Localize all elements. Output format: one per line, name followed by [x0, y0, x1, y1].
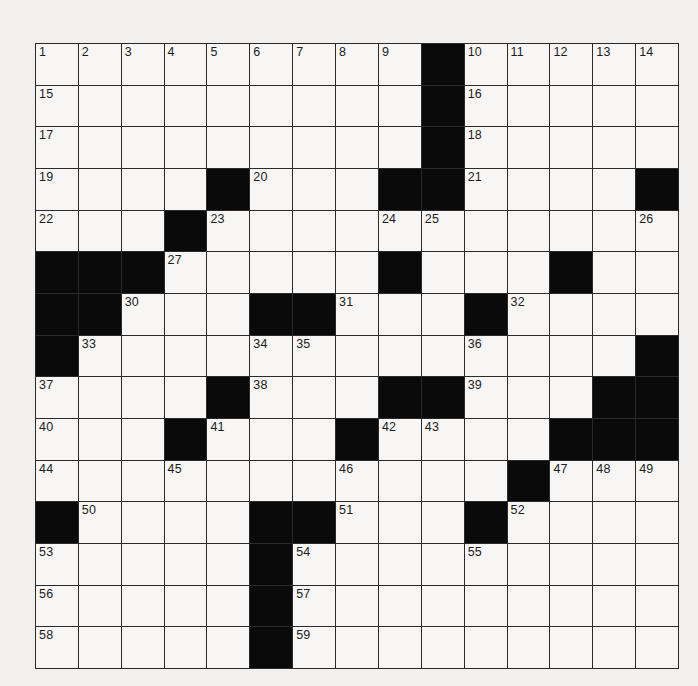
crossword-cell[interactable]: 37 [36, 377, 78, 418]
crossword-cell[interactable] [422, 586, 464, 627]
crossword-cell[interactable]: 35 [293, 336, 335, 377]
crossword-cell[interactable] [207, 544, 249, 585]
crossword-cell[interactable] [207, 127, 249, 168]
crossword-cell[interactable] [550, 169, 592, 210]
crossword-cell[interactable] [636, 502, 678, 543]
crossword-cell[interactable] [465, 252, 507, 293]
crossword-cell[interactable] [636, 86, 678, 127]
crossword-cell[interactable] [165, 377, 207, 418]
crossword-cell[interactable]: 17 [36, 127, 78, 168]
crossword-cell[interactable]: 53 [36, 544, 78, 585]
crossword-cell[interactable] [508, 377, 550, 418]
crossword-cell[interactable]: 24 [379, 211, 421, 252]
crossword-cell[interactable] [79, 627, 121, 668]
crossword-cell[interactable] [122, 586, 164, 627]
crossword-cell[interactable] [79, 127, 121, 168]
crossword-cell[interactable] [207, 86, 249, 127]
crossword-cell[interactable] [593, 86, 635, 127]
crossword-cell[interactable] [422, 252, 464, 293]
crossword-cell[interactable]: 41 [207, 419, 249, 460]
crossword-cell[interactable] [336, 586, 378, 627]
crossword-cell[interactable] [593, 169, 635, 210]
crossword-cell[interactable] [336, 627, 378, 668]
crossword-cell[interactable] [636, 586, 678, 627]
crossword-cell[interactable] [79, 544, 121, 585]
crossword-cell[interactable]: 58 [36, 627, 78, 668]
crossword-cell[interactable] [508, 252, 550, 293]
crossword-cell[interactable] [122, 169, 164, 210]
crossword-cell[interactable]: 14 [636, 44, 678, 85]
crossword-cell[interactable] [550, 544, 592, 585]
crossword-cell[interactable]: 18 [465, 127, 507, 168]
crossword-cell[interactable]: 56 [36, 586, 78, 627]
crossword-cell[interactable] [593, 627, 635, 668]
crossword-cell[interactable]: 15 [36, 86, 78, 127]
crossword-cell[interactable] [79, 377, 121, 418]
crossword-cell[interactable] [250, 461, 292, 502]
crossword-cell[interactable]: 47 [550, 461, 592, 502]
crossword-cell[interactable] [636, 294, 678, 335]
crossword-cell[interactable]: 11 [508, 44, 550, 85]
crossword-cell[interactable]: 43 [422, 419, 464, 460]
crossword-cell[interactable] [122, 502, 164, 543]
crossword-cell[interactable]: 26 [636, 211, 678, 252]
crossword-cell[interactable] [293, 86, 335, 127]
crossword-cell[interactable] [250, 252, 292, 293]
crossword-cell[interactable]: 25 [422, 211, 464, 252]
crossword-cell[interactable] [207, 252, 249, 293]
crossword-cell[interactable]: 9 [379, 44, 421, 85]
crossword-cell[interactable] [336, 377, 378, 418]
crossword-cell[interactable] [79, 169, 121, 210]
crossword-cell[interactable] [550, 211, 592, 252]
crossword-cell[interactable] [636, 627, 678, 668]
crossword-cell[interactable] [250, 419, 292, 460]
crossword-cell[interactable] [593, 294, 635, 335]
crossword-cell[interactable] [636, 544, 678, 585]
crossword-cell[interactable]: 44 [36, 461, 78, 502]
crossword-cell[interactable] [508, 586, 550, 627]
crossword-cell[interactable] [336, 86, 378, 127]
crossword-cell[interactable] [593, 336, 635, 377]
crossword-cell[interactable] [336, 252, 378, 293]
crossword-cell[interactable] [122, 461, 164, 502]
crossword-cell[interactable]: 7 [293, 44, 335, 85]
crossword-cell[interactable]: 12 [550, 44, 592, 85]
crossword-cell[interactable] [207, 586, 249, 627]
crossword-cell[interactable] [508, 627, 550, 668]
crossword-cell[interactable]: 2 [79, 44, 121, 85]
crossword-cell[interactable]: 34 [250, 336, 292, 377]
crossword-cell[interactable] [79, 586, 121, 627]
crossword-cell[interactable]: 4 [165, 44, 207, 85]
crossword-cell[interactable] [508, 169, 550, 210]
crossword-cell[interactable]: 13 [593, 44, 635, 85]
crossword-cell[interactable] [293, 252, 335, 293]
crossword-cell[interactable] [122, 627, 164, 668]
crossword-cell[interactable] [379, 294, 421, 335]
crossword-cell[interactable] [293, 461, 335, 502]
crossword-cell[interactable]: 51 [336, 502, 378, 543]
crossword-cell[interactable] [465, 627, 507, 668]
crossword-cell[interactable] [465, 211, 507, 252]
crossword-cell[interactable]: 46 [336, 461, 378, 502]
crossword-cell[interactable]: 3 [122, 44, 164, 85]
crossword-cell[interactable]: 1 [36, 44, 78, 85]
crossword-cell[interactable] [593, 544, 635, 585]
crossword-cell[interactable]: 55 [465, 544, 507, 585]
crossword-cell[interactable]: 49 [636, 461, 678, 502]
crossword-cell[interactable] [508, 86, 550, 127]
crossword-cell[interactable] [379, 127, 421, 168]
crossword-cell[interactable] [207, 294, 249, 335]
crossword-cell[interactable] [336, 336, 378, 377]
crossword-cell[interactable]: 6 [250, 44, 292, 85]
crossword-cell[interactable] [550, 586, 592, 627]
crossword-cell[interactable] [250, 86, 292, 127]
crossword-cell[interactable] [165, 336, 207, 377]
crossword-cell[interactable] [79, 419, 121, 460]
crossword-cell[interactable] [550, 502, 592, 543]
crossword-cell[interactable] [207, 336, 249, 377]
crossword-cell[interactable] [593, 502, 635, 543]
crossword-cell[interactable] [550, 336, 592, 377]
crossword-cell[interactable]: 36 [465, 336, 507, 377]
crossword-cell[interactable] [422, 336, 464, 377]
crossword-cell[interactable] [293, 127, 335, 168]
